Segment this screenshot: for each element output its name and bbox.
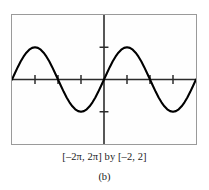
calculator-screen <box>11 14 197 145</box>
figure-panel: [–2π, 2π] by [–2, 2] (b) <box>0 0 209 190</box>
panel-label: (b) <box>0 170 209 183</box>
window-caption: [–2π, 2π] by [–2, 2] <box>0 150 209 163</box>
sine-graph-svg <box>12 15 196 144</box>
